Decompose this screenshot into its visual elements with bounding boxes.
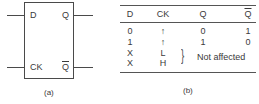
row-3-ck: L (153, 48, 173, 58)
row-4-d: X (120, 58, 140, 68)
not-affected-note: Not affected (197, 52, 245, 62)
d-input-wire (7, 15, 24, 16)
row-2-ck: ↑ (153, 37, 173, 47)
header-q-bar: Q (238, 9, 258, 19)
q-bar-output-wire (74, 67, 93, 68)
table-header-rule (120, 22, 256, 23)
table-bottom-rule (120, 72, 256, 73)
row-2-q: 1 (193, 37, 213, 47)
row-2-d: 1 (120, 37, 140, 47)
figure-a-caption: (a) (44, 88, 54, 98)
row-2-q-bar: 0 (238, 37, 258, 47)
ck-input-label: CK (30, 62, 43, 72)
q-output-label: Q (62, 10, 69, 20)
table-top-rule (120, 5, 256, 6)
right-brace-icon: } (181, 47, 184, 65)
row-1-d: 0 (120, 26, 140, 36)
row-4-ck: H (153, 58, 173, 68)
d-input-label: D (30, 10, 37, 20)
header-d: D (120, 9, 140, 19)
row-1-q: 0 (193, 26, 213, 36)
q-bar-output-label: Q (62, 62, 69, 72)
row-3-d: X (120, 48, 140, 58)
row-1-ck: ↑ (153, 26, 173, 36)
q-output-wire (74, 15, 93, 16)
figure-b-caption: (b) (183, 86, 193, 96)
header-ck: CK (153, 9, 173, 19)
header-q: Q (193, 9, 213, 19)
row-1-q-bar: 1 (238, 26, 258, 36)
ck-input-wire (7, 67, 24, 68)
